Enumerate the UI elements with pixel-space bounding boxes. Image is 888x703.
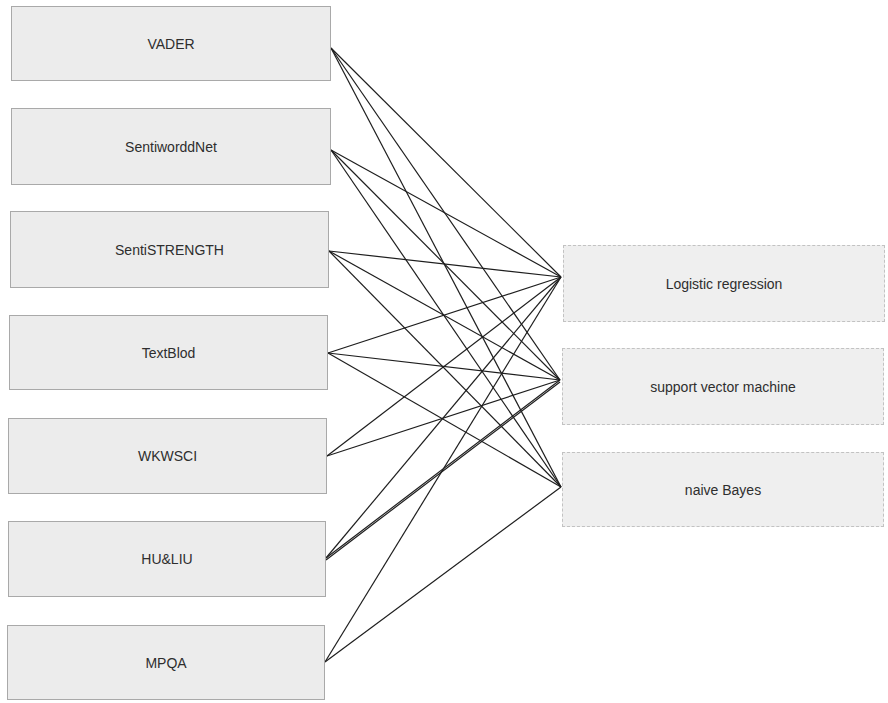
classifier-label: naive Bayes (685, 482, 761, 498)
lexicon-label: WKWSCI (138, 448, 197, 464)
lexicon-box-huliu: HU&LIU (8, 521, 326, 597)
lexicon-box-textblob: TextBlod (9, 315, 328, 390)
lexicon-label: SentiSTRENGTH (115, 242, 224, 258)
edge-wkwsci-lr (327, 277, 561, 456)
edge-vader-lr (331, 48, 561, 277)
classifier-label: Logistic regression (666, 276, 783, 292)
classifier-label: support vector machine (650, 379, 796, 395)
lexicon-label: MPQA (145, 655, 186, 671)
edge-sentiwordnet-lr (331, 150, 561, 277)
edge-sentistrength-nb (329, 251, 561, 487)
edge-sentistrength-lr (329, 251, 561, 277)
edge-huliu-lr (326, 277, 561, 558)
lexicon-label: TextBlod (142, 345, 196, 361)
lexicon-box-sentistrength: SentiSTRENGTH (10, 211, 329, 288)
edge-mpqa-lr (325, 277, 561, 662)
edge-vader-svm (331, 48, 560, 380)
lexicon-box-sentiwordnet: SentiworddNet (11, 108, 331, 185)
lexicon-label: HU&LIU (141, 551, 192, 567)
lexicon-label: VADER (147, 36, 194, 52)
classifier-box-logistic-regression: Logistic regression (563, 245, 885, 322)
classifier-box-naive-bayes: naive Bayes (562, 452, 884, 527)
lexicon-label: SentiworddNet (125, 139, 217, 155)
classifier-box-svm: support vector machine (562, 348, 884, 425)
lexicon-box-mpqa: MPQA (7, 625, 325, 700)
edge-mpqa-nb (325, 487, 561, 662)
lexicon-box-wkwsci: WKWSCI (8, 418, 327, 494)
edge-textblob-lr (328, 277, 561, 353)
edge-sentiwordnet-svm (331, 150, 560, 380)
edge-huliu-svm (326, 382, 560, 560)
lexicon-box-vader: VADER (11, 6, 331, 81)
